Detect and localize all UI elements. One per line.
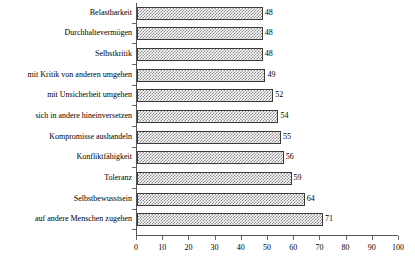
- x-axis-tick-mark: [398, 236, 399, 240]
- x-axis-tick-mark: [136, 236, 137, 240]
- x-axis-tick-mark: [372, 236, 373, 240]
- x-axis-tick-mark: [319, 236, 320, 240]
- x-axis-tick-mark: [162, 236, 163, 240]
- x-axis-tick-mark: [293, 236, 294, 240]
- x-axis-tick-mark: [267, 236, 268, 240]
- plot-area: Belastbarkeit48Durchhaltevermögen48Selbs…: [0, 0, 415, 267]
- bar-chart: Belastbarkeit48Durchhaltevermögen48Selbs…: [0, 0, 415, 267]
- x-axis-tick-mark: [241, 236, 242, 240]
- x-axis-tick-mark: [188, 236, 189, 240]
- x-axis-tick-label: 100: [383, 243, 413, 253]
- x-axis-tick-mark: [215, 236, 216, 240]
- x-axis-tick-mark: [346, 236, 347, 240]
- x-axis-ticks: 0102030405060708090100: [0, 0, 415, 267]
